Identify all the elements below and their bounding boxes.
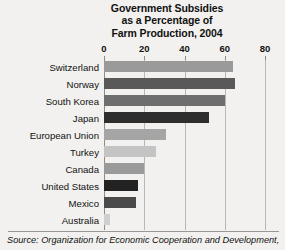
category-label-switzerland: Switzerland: [0, 62, 99, 73]
bar-norway: [104, 78, 235, 89]
bar-south-korea: [104, 95, 225, 106]
bar-chart-figure: Government Subsidies as a Percentage of …: [0, 0, 285, 250]
category-label-norway: Norway: [0, 79, 99, 90]
category-label-united-states: United States: [0, 181, 99, 192]
chart-title-line-3: Farm Production, 2004: [84, 27, 250, 39]
bar-european-union: [104, 129, 166, 140]
bar-row: Switzerland: [0, 60, 285, 77]
x-tick-label-40: 40: [179, 43, 190, 54]
x-tick-label-0: 0: [101, 43, 106, 54]
bar-canada: [104, 163, 144, 174]
bar-japan: [104, 112, 209, 123]
source-note: Source: Organization for Economic Cooper…: [7, 234, 283, 246]
x-tick-label-60: 60: [219, 43, 230, 54]
bar-mexico: [104, 197, 136, 208]
category-label-turkey: Turkey: [0, 147, 99, 158]
bar-row: Canada: [0, 162, 285, 179]
bar-row: European Union: [0, 128, 285, 145]
bar-row: Japan: [0, 111, 285, 128]
x-tick-label-20: 20: [139, 43, 150, 54]
category-label-canada: Canada: [0, 164, 99, 175]
chart-title-line-2: as a Percentage of: [84, 14, 250, 26]
bar-row: United States: [0, 179, 285, 196]
category-label-south-korea: South Korea: [0, 96, 99, 107]
x-tick-label-80: 80: [260, 43, 271, 54]
bar-row: South Korea: [0, 94, 285, 111]
bar-switzerland: [104, 61, 233, 72]
bar-row: Mexico: [0, 196, 285, 213]
bar-australia: [104, 214, 110, 225]
category-label-mexico: Mexico: [0, 198, 99, 209]
chart-title: Government Subsidies as a Percentage of …: [84, 2, 250, 39]
bar-row: Australia: [0, 213, 285, 230]
bar-united-states: [104, 180, 138, 191]
bottom-divider: [8, 231, 279, 232]
category-label-japan: Japan: [0, 113, 99, 124]
category-label-european-union: European Union: [0, 130, 99, 141]
bar-row: Turkey: [0, 145, 285, 162]
chart-title-line-1: Government Subsidies: [84, 2, 250, 14]
bar-turkey: [104, 146, 156, 157]
bar-rows: SwitzerlandNorwaySouth KoreaJapanEuropea…: [0, 60, 285, 230]
bar-row: Norway: [0, 77, 285, 94]
x-axis-tick-labels: 020406080: [0, 43, 285, 57]
category-label-australia: Australia: [0, 215, 99, 226]
